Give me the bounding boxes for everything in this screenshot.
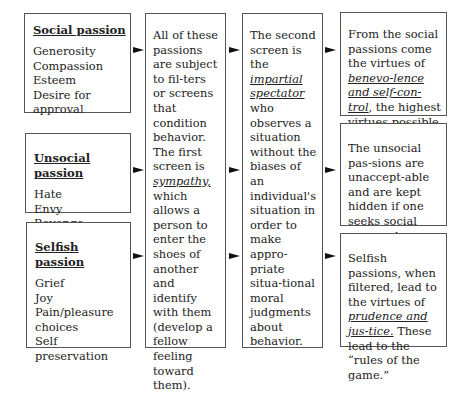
passion-item: Generosity	[33, 44, 130, 59]
arrow-right-icon	[325, 167, 336, 173]
unsocial-passion-box: Unsocial passion Hate Envy Revenge	[25, 133, 131, 213]
passion-item: Joy	[35, 291, 130, 306]
arrow-right-icon	[133, 167, 144, 173]
arrow-right-icon	[229, 47, 240, 53]
unsocial-outcome-text: The unsocial pas-sions are unaccept-able…	[348, 141, 429, 243]
arrow-right-icon	[325, 253, 336, 259]
sympathy-filter-box: All of these passions are subject to fil…	[145, 13, 226, 348]
social-passion-box: Social passion Generosity Compassion Est…	[24, 13, 131, 113]
arrow-right-icon	[325, 47, 336, 53]
spectator-text-after: who observes a situation without the bia…	[250, 101, 316, 349]
impartial-spectator-box: The second screen is the impartial spect…	[242, 13, 323, 348]
selfish-passion-heading: Selfish passion	[35, 240, 130, 270]
selfish-outcome-before: Selfish passions, when filtered, lead to…	[348, 251, 437, 309]
arrow-right-icon	[229, 167, 240, 173]
selfish-passion-box: Selfish passion Grief Joy Pain/pleasure …	[26, 222, 131, 348]
social-passion-heading: Social passion	[33, 23, 130, 38]
arrow-right-icon	[229, 253, 240, 259]
spectator-term: impartial spectator	[250, 72, 305, 101]
arrow-right-icon	[133, 47, 144, 53]
social-outcome-box: From the social passions come the virtue…	[340, 12, 447, 116]
social-outcome-before: From the social passions come the virtue…	[348, 27, 438, 70]
selfish-outcome-box: Selfish passions, when filtered, lead to…	[340, 233, 447, 347]
sympathy-term: sympathy,	[153, 174, 211, 188]
passion-item: Desire for approval	[33, 88, 103, 117]
passion-item: Hate	[34, 187, 130, 202]
unsocial-outcome-box: The unsocial pas-sions are unaccept-able…	[340, 123, 447, 226]
sympathy-text-after: which allows a person to enter the shoes…	[153, 189, 213, 393]
sympathy-text-before: All of these passions are subject to fil…	[153, 28, 218, 173]
passion-item: Self preservation	[35, 334, 130, 363]
passion-item: Pain/pleasure choices	[35, 305, 115, 334]
passion-item: Esteem	[33, 73, 130, 88]
unsocial-passion-heading: Unsocial passion	[34, 151, 130, 181]
arrow-right-icon	[133, 253, 144, 259]
spectator-text-before: The second screen is the	[250, 28, 316, 71]
passion-item: Grief	[35, 276, 130, 291]
passion-item: Envy	[34, 202, 130, 217]
passion-item: Compassion	[33, 59, 130, 74]
